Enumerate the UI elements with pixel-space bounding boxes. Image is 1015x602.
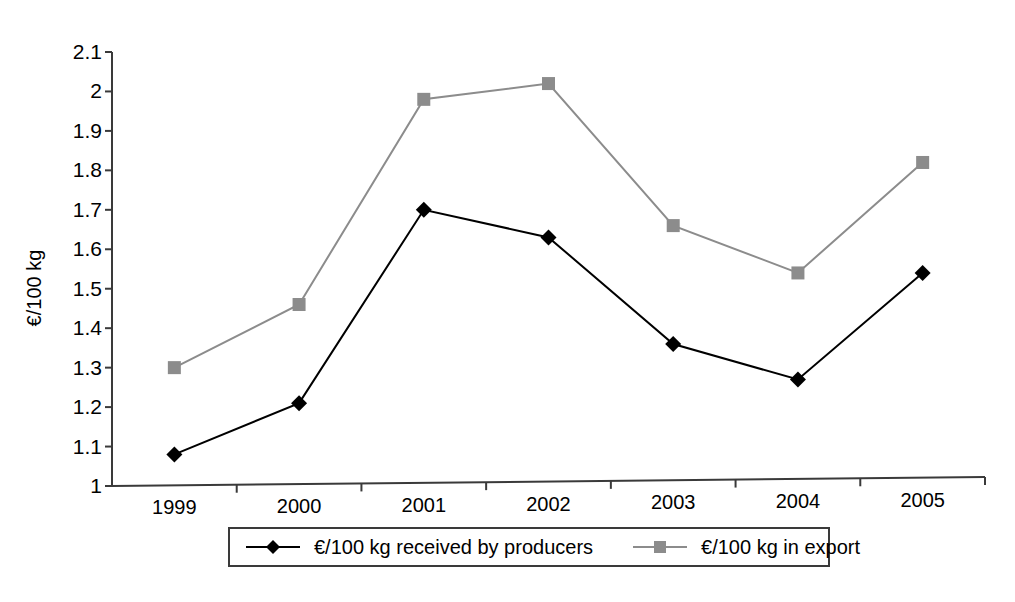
square-marker-icon	[631, 539, 689, 555]
x-axis-tick-label: 2002	[489, 494, 609, 514]
x-axis-tick-label: 2000	[239, 496, 359, 516]
chart-page: 11.11.21.31.41.51.61.71.81.922.1 1999200…	[0, 0, 1015, 602]
legend-entry-export: €/100 kg in export	[631, 537, 860, 557]
x-axis-tick-label: 2005	[863, 490, 983, 510]
legend-entry-producers: €/100 kg received by producers	[244, 537, 593, 557]
x-axis-tick-label: 2001	[364, 495, 484, 515]
x-axis-tick-label: 2004	[738, 491, 858, 511]
legend-label-producers: €/100 kg received by producers	[314, 537, 593, 557]
legend-label-export: €/100 kg in export	[701, 537, 860, 557]
x-axis-tick-labels: 1999200020012002200320042005	[0, 0, 1015, 602]
line-chart: 11.11.21.31.41.51.61.71.81.922.1 1999200…	[0, 0, 1015, 602]
diamond-marker-icon	[244, 539, 302, 555]
chart-legend: €/100 kg received by producers €/100 kg …	[228, 527, 830, 567]
x-axis-tick-label: 2003	[613, 492, 733, 512]
x-axis-tick-label: 1999	[114, 497, 234, 517]
y-axis-title: €/100 kg	[24, 228, 44, 348]
